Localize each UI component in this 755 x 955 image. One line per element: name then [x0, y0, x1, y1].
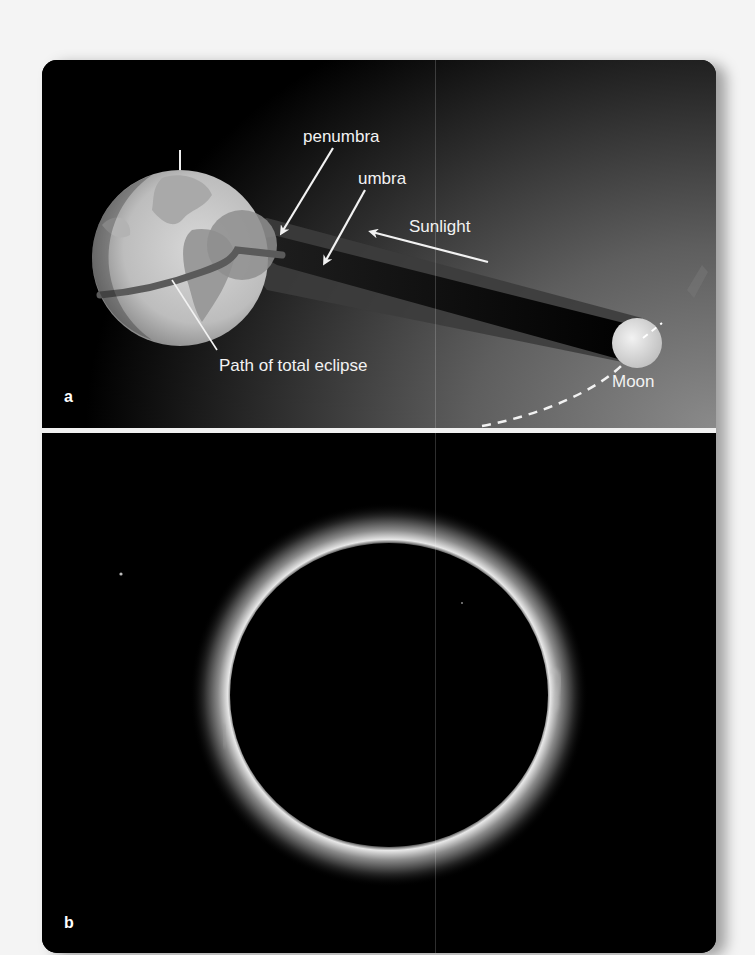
panel-letter-b: b: [64, 915, 74, 931]
moon-disk-icon: [230, 543, 548, 847]
panel-b-eclipse-photo: b: [42, 433, 716, 953]
label-sunlight: Sunlight: [409, 218, 470, 235]
scan-seam-line: [435, 60, 436, 953]
moon-sphere-icon: [612, 318, 662, 368]
panel-letter-a: a: [64, 389, 73, 405]
label-penumbra: penumbra: [303, 128, 380, 145]
umbra-shadow: [237, 236, 640, 365]
moon-orbit-dashed-icon: [482, 365, 622, 426]
corona-svg: [42, 433, 716, 953]
earth-globe-icon: [92, 150, 282, 346]
panel-a-diagram: penumbra umbra Sunlight Path of total ec…: [42, 60, 716, 428]
label-moon: Moon: [612, 373, 655, 390]
arrow-penumbra-icon: [282, 148, 333, 232]
eclipse-figure: penumbra umbra Sunlight Path of total ec…: [42, 60, 716, 953]
label-path-of-total-eclipse: Path of total eclipse: [219, 357, 367, 374]
label-umbra: umbra: [358, 170, 406, 187]
